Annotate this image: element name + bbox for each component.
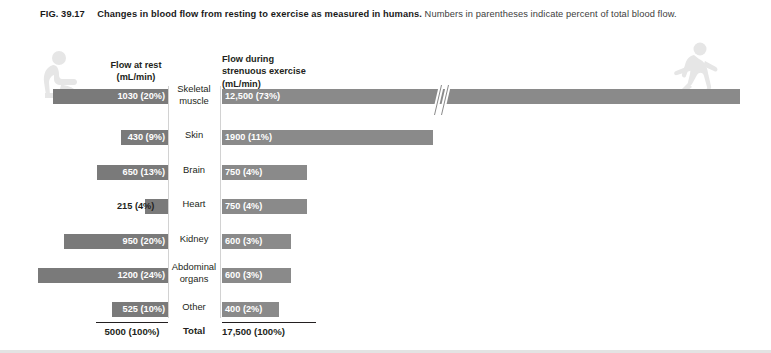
bar-label-exercise: 750 (4%) [225,166,262,179]
bar-label-rest: 1200 (24%) [38,269,165,282]
row-label-line1: Skin [168,129,220,141]
bar-label-exercise: 1900 (11%) [225,131,272,144]
row-label: Skeletal muscle [168,83,220,106]
bar-label-rest: 525 (10%) [110,303,165,316]
bar-label-rest: 1030 (20%) [53,90,165,103]
bar-label-exercise: 400 (2%) [225,303,262,316]
row-label: Abdominal organs [168,261,220,284]
table-row: 950 (20%) 600 (3%) Kidney [0,231,771,265]
figure-container: FIG. 39.17 Changes in blood flow from re… [0,0,771,353]
row-label-line1: Skeletal [168,83,220,95]
row-label-line1: Other [168,301,220,313]
axis-break-icon [430,85,456,115]
bar-label-rest: 430 (9%) [118,131,165,144]
row-label: Brain [168,164,220,176]
bar-exercise [222,89,740,104]
table-row: 1200 (24%) 600 (3%) Abdominal organs [0,265,771,299]
row-label: Skin [168,129,220,141]
row-label-line2: organs [168,273,220,285]
totals-row: 5000 (100%) Total 17,500 (100%) [0,322,771,344]
total-rest-value: 5000 (100%) [96,322,168,337]
table-row: 215 (4%) 750 (4%) Heart [0,196,771,230]
row-label-line1: Abdominal [168,261,220,273]
row-label-line2: muscle [168,95,220,107]
bar-label-exercise: 600 (3%) [225,269,262,282]
bar-label-exercise: 750 (4%) [225,200,262,213]
bar-label-rest-value: 215 (4%) [117,200,154,213]
row-label-line1: Brain [168,164,220,176]
row-label-line1: Kidney [168,233,220,245]
table-row: 650 (13%) 750 (4%) Brain [0,162,771,196]
total-label: Total [168,322,220,336]
row-label: Heart [168,198,220,210]
bar-label-exercise: 12,500 (73%) [225,90,280,103]
table-row: 430 (9%) 1900 (11%) Skin [0,127,771,161]
chart-plot-area: 1030 (20%) 12,500 (73%) Skeletal muscle … [0,0,771,353]
table-row: 1030 (20%) 12,500 (73%) Skeletal muscle [0,86,771,120]
row-label: Other [168,301,220,313]
bar-label-rest: 650 (13%) [94,166,165,179]
total-exercise-value: 17,500 (100%) [222,322,316,337]
bar-label-exercise: 600 (3%) [225,235,262,248]
bar-label-rest: 950 (20%) [62,235,165,248]
row-label: Kidney [168,233,220,245]
row-label-line1: Heart [168,198,220,210]
